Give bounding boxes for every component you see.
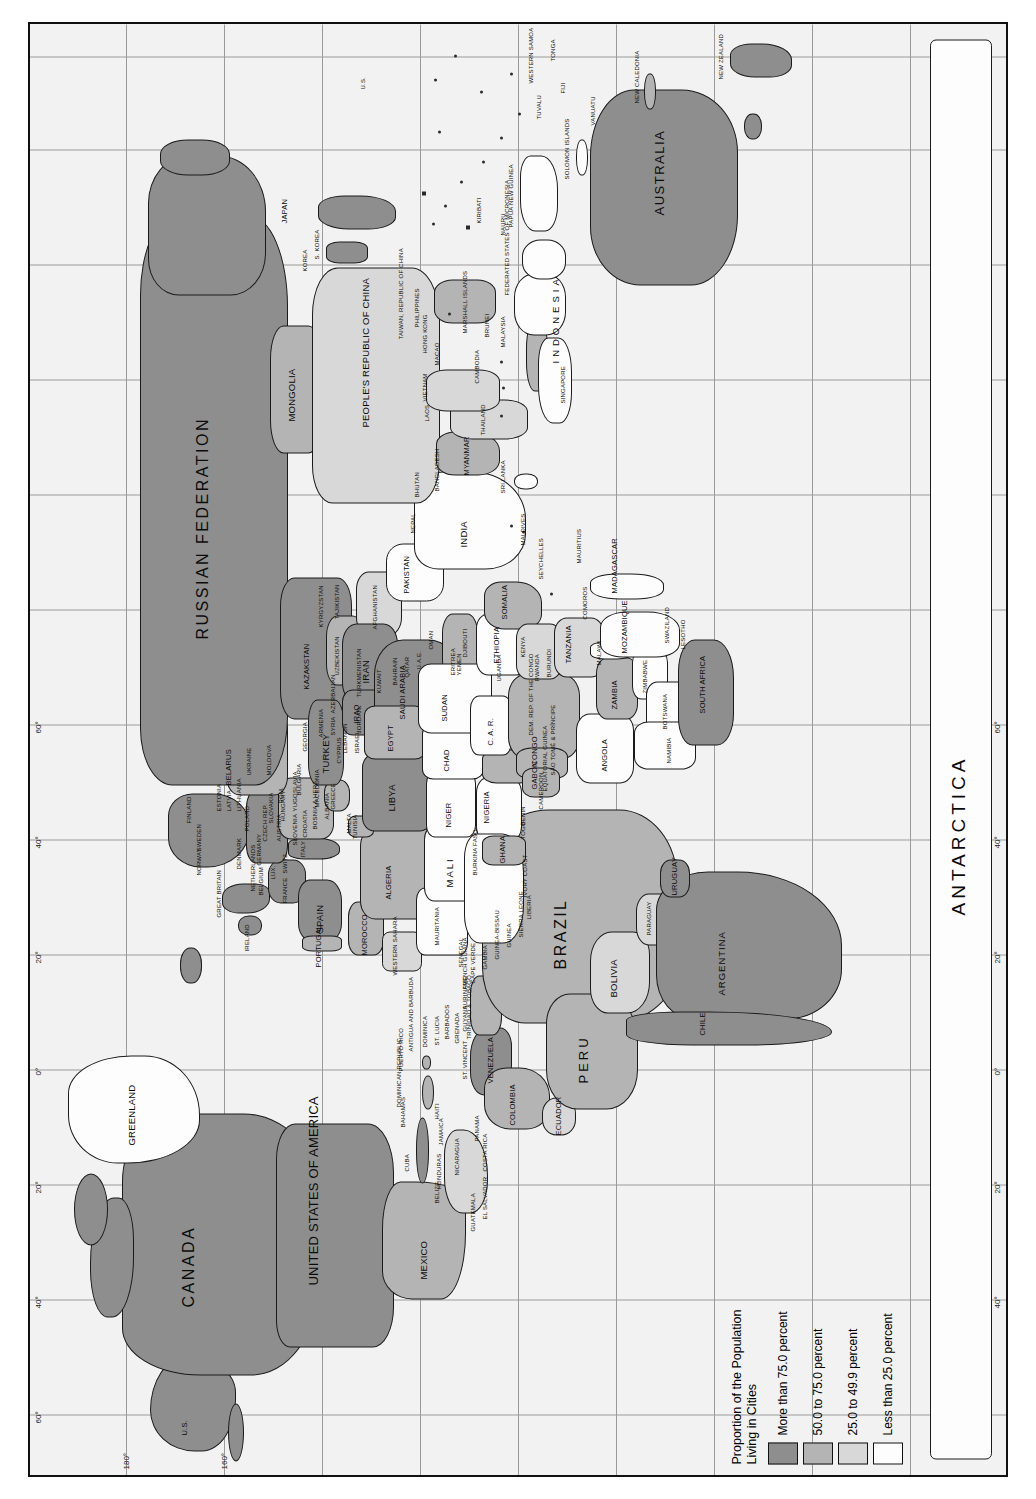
legend-row-less-than-25: Less than 25.0 percent [873,1209,903,1464]
island-dot [434,78,437,81]
land-angola [576,713,634,783]
land-sri-lanka [514,473,538,489]
tick-top-0: 0° [34,1067,43,1075]
legend-row-25-to-49: 25.0 to 49.9 percent [838,1209,868,1464]
land-uruguay [660,859,690,897]
island-dot [510,524,513,527]
land-new-zealand [730,43,792,77]
land-dem-rep-congo [508,673,580,759]
label-grenada: GRENADA [454,1012,460,1043]
tick-bottom-40e: 40° [993,836,1002,848]
island-dot [500,414,503,417]
legend-label-25-to-49: 25.0 to 49.9 percent [846,1328,860,1435]
land-canada-arctic-2 [74,1173,108,1245]
legend-swatch-less-than-25 [873,1442,903,1464]
label-cuba: CUBA [404,1154,410,1171]
land-indonesia-sulawesi [522,239,566,279]
label-st-vincent: ST. VINCENT [462,1040,468,1079]
land-korea [326,241,368,263]
label-dominican-republic: DOMINICAN REPUBLIC [396,1037,402,1107]
land-vietnam-laos [426,369,500,411]
legend-swatch-25-to-49 [838,1442,868,1464]
island-dot [550,592,553,595]
land-russia-far-east [148,155,266,295]
legend-label-50-to-75: 50.0 to 75.0 percent [811,1328,825,1435]
label-tuvalu: TUVALU [536,95,542,119]
land-kamchatka [160,139,230,175]
land-spain [298,879,342,941]
map-legend: Proportion of the Population Living in C… [730,1209,850,1464]
label-bahamas: BAHAMAS [400,1096,406,1127]
tick-bottom-0: 0° [993,1067,1002,1075]
map-frame: U.S. CANADA UNITED STATES OF AMERICA GRE… [28,22,1008,1477]
legend-title-line1: Proportion of the Population [730,1209,745,1464]
island-dot [422,191,426,195]
land-central-african-republic [470,695,512,755]
island-dot [510,72,513,75]
tick-top-40e: 40° [34,836,43,848]
land-united-states [276,1123,394,1347]
tick-bottom-40: 40° [993,1296,1002,1308]
land-japan [318,195,396,229]
label-antigua-barbuda: ANTIGUA AND BARBUDA [408,976,414,1051]
land-bolivia [590,931,650,1013]
graticule-line [910,24,911,1475]
tick-top-20w: 20° [34,1181,43,1193]
island-dot [480,90,483,93]
label-nauru: NAURU [500,213,506,235]
tick-bottom-20e: 20° [993,951,1002,963]
land-hispaniola [422,1075,434,1109]
land-scandinavia [168,793,250,867]
land-central-america [444,1129,488,1213]
land-indonesia-borneo [514,273,566,335]
land-ghana [482,835,526,865]
tick-bottom-20: 20° [993,1181,1002,1193]
land-niger [426,771,476,837]
tick-top-60w: 60° [34,1411,43,1423]
label-barbados: BARBADOS [444,1004,450,1039]
label-mauritius: MAURITIUS [576,528,582,563]
legend-title-line2: Living in Cities [745,1209,760,1464]
land-nigeria [476,777,522,841]
land-philippines [434,279,496,323]
island-dot [444,204,447,207]
land-great-britain [222,883,270,913]
legend-row-more-than-75: More than 75.0 percent [768,1209,798,1464]
land-solomon-islands [576,139,588,175]
island-dot [448,312,451,315]
land-mozambique [600,611,680,657]
label-papua-new-guinea: PAPUA NEW GUINEA [508,164,514,227]
map-page: U.S. CANADA UNITED STATES OF AMERICA GRE… [0,0,1036,1499]
label-haiti: HAITI [434,1103,440,1119]
label-suriname: SURINAME [462,976,468,1009]
tick-top-20e: 20° [34,951,43,963]
island-dot [454,54,457,57]
label-comoros: COMOROS [582,586,588,619]
island-dot [500,360,503,363]
legend-swatch-50-to-75 [803,1442,833,1464]
tick-top-60e: 60° [34,721,43,733]
tick-top-40w: 40° [34,1296,43,1308]
legend-swatch-more-than-75 [768,1442,798,1464]
land-south-africa [678,639,734,745]
land-ireland [238,915,262,935]
label-south-korea: S. KOREA [314,229,320,259]
label-us-hawaii: U.S. [360,77,366,89]
land-somalia [484,581,542,629]
island-dot [522,530,525,533]
label-western-samoa: WESTERN SAMOA [528,27,534,83]
land-italy [288,837,340,859]
tick-left-180: 180° [122,1452,131,1469]
land-portugal [302,935,342,951]
label-great-britain: GREAT BRITAIN [216,869,222,917]
label-guyana: GUYANA [462,1005,468,1031]
legend-label-less-than-25: Less than 25.0 percent [881,1313,895,1435]
land-greenland [68,1055,200,1163]
legend-row-50-to-75: 50.0 to 75.0 percent [803,1209,833,1464]
land-tasmania [744,113,762,139]
island-dot [466,225,470,229]
land-indonesia-sumatra [538,337,572,423]
tick-bottom-60e: 60° [993,721,1002,733]
label-st-lucia: ST. LUCIA [434,1015,440,1045]
land-puerto-rico [422,1055,431,1069]
